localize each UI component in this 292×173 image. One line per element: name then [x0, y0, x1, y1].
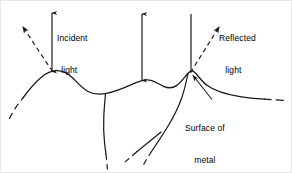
- reflection-diagram: Incident light Reflected light Surface o…: [0, 0, 292, 173]
- reflected-light-label: Reflected light: [219, 12, 256, 96]
- incident-light-label: Incident light: [57, 12, 88, 96]
- subsurface-crack-left-dashed-end: [106, 155, 107, 170]
- reflected-ray-right: [191, 27, 220, 73]
- incident-light-label-line1: Incident: [57, 33, 88, 44]
- subsurface-crack-left: [104, 94, 106, 155]
- incident-light-label-line2: light: [57, 65, 88, 76]
- subsurface-crack-right: [152, 74, 189, 152]
- reflected-light-label-line1: Reflected: [219, 33, 256, 44]
- surface-of-metal-label-line2: metal: [185, 155, 225, 166]
- subsurface-crack-lower-right-dashed-end: [125, 152, 137, 162]
- surface-of-metal-label-line1: Surface of: [185, 123, 225, 134]
- surface-left-dashed-tail: [10, 99, 23, 119]
- surface-of-metal-label: Surface of metal: [185, 102, 225, 173]
- reflected-ray-left: [23, 27, 53, 72]
- reflected-light-label-line2: light: [219, 65, 256, 76]
- surface-right-dashed-tail: [265, 99, 286, 101]
- subsurface-crack-right-dashed-end: [143, 152, 152, 167]
